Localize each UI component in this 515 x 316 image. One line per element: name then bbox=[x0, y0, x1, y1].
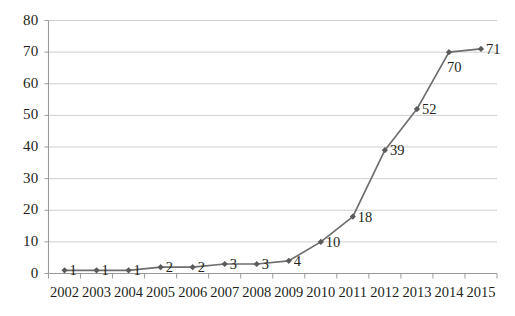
y-tick-label: 20 bbox=[9, 202, 39, 217]
data-point-label: 3 bbox=[262, 257, 269, 272]
data-point-label: 70 bbox=[447, 60, 462, 75]
x-tick-label: 2009 bbox=[273, 284, 305, 300]
data-point-marker bbox=[190, 264, 196, 270]
data-point-label: 1 bbox=[70, 263, 77, 278]
x-tick-label: 2013 bbox=[401, 284, 433, 300]
line-chart: 01020304050607080 2002200320042005200620… bbox=[0, 0, 515, 316]
data-point-label: 18 bbox=[358, 210, 373, 225]
data-point-marker bbox=[222, 261, 228, 267]
data-point-marker bbox=[158, 264, 164, 270]
data-line bbox=[65, 49, 481, 270]
x-tick-label: 2008 bbox=[241, 284, 273, 300]
data-point-label: 71 bbox=[486, 42, 501, 57]
data-point-label: 10 bbox=[326, 235, 341, 250]
chart-plot-area bbox=[0, 0, 515, 316]
x-tick-label: 2002 bbox=[49, 284, 81, 300]
data-point-markers bbox=[61, 46, 484, 274]
y-tick-label: 50 bbox=[9, 107, 39, 122]
x-tick-label: 2005 bbox=[145, 284, 177, 300]
x-tick-label: 2004 bbox=[113, 284, 145, 300]
data-point-marker bbox=[93, 267, 99, 273]
y-tick-label: 10 bbox=[9, 234, 39, 249]
y-tick-label: 0 bbox=[9, 266, 39, 281]
x-tick-label: 2010 bbox=[305, 284, 337, 300]
data-point-label: 4 bbox=[294, 254, 301, 269]
x-tick-label: 2011 bbox=[337, 284, 369, 300]
data-point-label: 2 bbox=[198, 260, 205, 275]
x-tick-label: 2003 bbox=[81, 284, 113, 300]
data-point-marker bbox=[254, 261, 260, 267]
data-point-label: 52 bbox=[422, 102, 437, 117]
y-tick-label: 30 bbox=[9, 171, 39, 186]
gridlines bbox=[49, 21, 498, 274]
y-tick-label: 70 bbox=[9, 44, 39, 59]
x-tick-label: 2007 bbox=[209, 284, 241, 300]
data-point-label: 2 bbox=[166, 260, 173, 275]
y-tick-label: 60 bbox=[9, 76, 39, 91]
y-tick-label: 40 bbox=[9, 139, 39, 154]
x-tick-label: 2014 bbox=[433, 284, 465, 300]
data-point-marker bbox=[478, 46, 484, 52]
data-point-marker bbox=[61, 267, 67, 273]
data-point-label: 3 bbox=[230, 257, 237, 272]
data-point-label: 1 bbox=[134, 263, 141, 278]
x-tick-marks bbox=[49, 274, 498, 279]
data-point-label: 1 bbox=[102, 263, 109, 278]
data-point-marker bbox=[125, 267, 131, 273]
axis-lines bbox=[45, 21, 49, 274]
x-tick-label: 2015 bbox=[465, 284, 497, 300]
x-tick-label: 2012 bbox=[369, 284, 401, 300]
y-tick-label: 80 bbox=[9, 13, 39, 28]
data-point-label: 39 bbox=[390, 143, 405, 158]
x-tick-label: 2006 bbox=[177, 284, 209, 300]
